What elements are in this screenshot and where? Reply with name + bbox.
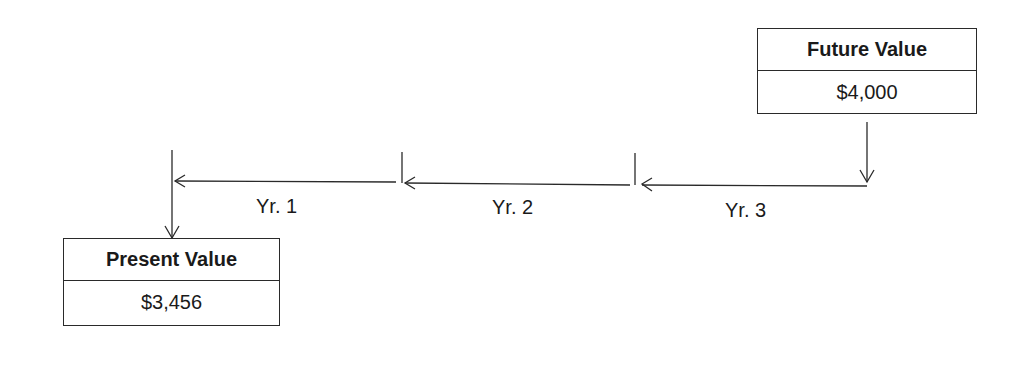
future-value-title: Future Value <box>758 29 976 71</box>
future-value-amount: $4,000 <box>758 71 976 113</box>
year-1-label: Yr. 1 <box>256 195 297 218</box>
year-3-segment <box>642 185 867 186</box>
year-3-label: Yr. 3 <box>725 199 766 222</box>
year-2-label: Yr. 2 <box>492 196 533 219</box>
present-value-title: Present Value <box>64 239 279 281</box>
year-1-segment <box>175 181 396 182</box>
present-value-box: Present Value $3,456 <box>63 238 280 326</box>
future-value-box: Future Value $4,000 <box>757 28 977 114</box>
year-2-segment <box>405 183 630 185</box>
present-value-amount: $3,456 <box>64 281 279 323</box>
